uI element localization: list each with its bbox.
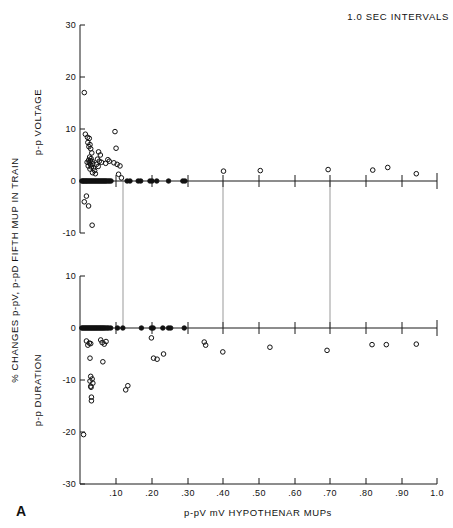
upper-point <box>119 176 124 181</box>
interval-annotation: 1.0 SEC INTERVALS <box>347 11 449 22</box>
upper-point <box>154 179 159 184</box>
scatter-figure: 1.0 SEC INTERVALS % CHANGES p-pV, p-pD F… <box>0 0 453 528</box>
upper-panel: p-p VOLTAGE 30 20 10 0 -10 <box>32 20 437 264</box>
xtick-label-7: .80 <box>359 488 372 498</box>
lower-panel-y-label: p-p DURATION <box>32 354 43 426</box>
xtick-label-1: .20 <box>145 488 158 498</box>
lower-point <box>121 326 126 331</box>
upper-ytick-neg10: -10 <box>62 228 76 238</box>
figure-container: 1.0 SEC INTERVALS % CHANGES p-pV, p-pD F… <box>0 0 453 528</box>
xtick-label-9: 1.0 <box>430 488 443 498</box>
lower-point <box>126 383 131 388</box>
y-axis-outer-label: % CHANGES p-pV, p-pD FIFTH MUP IN TRAIN <box>9 157 20 382</box>
upper-point <box>166 179 171 184</box>
lower-gridlines <box>123 264 330 328</box>
lower-panel: p-p DURATION 10 0 -10 -20 -30 <box>32 264 444 498</box>
upper-point <box>138 179 143 184</box>
lower-point <box>108 326 113 331</box>
lower-point <box>139 326 144 331</box>
lower-point <box>151 326 156 331</box>
upper-ytick-20: 20 <box>66 72 76 82</box>
lower-point <box>325 348 330 353</box>
lower-ytick-10: 10 <box>66 271 76 281</box>
upper-point <box>82 90 87 95</box>
upper-point <box>109 179 114 184</box>
lower-ytick-0: 0 <box>71 323 76 333</box>
lower-ytick-neg20: -20 <box>62 427 76 437</box>
upper-point <box>150 179 155 184</box>
upper-point <box>114 146 119 151</box>
upper-point <box>414 171 419 176</box>
upper-ytick-30: 30 <box>66 20 76 30</box>
lower-point <box>414 342 419 347</box>
upper-point <box>128 179 133 184</box>
x-axis-ticks <box>116 478 402 484</box>
upper-y-ticks: 30 20 10 0 -10 <box>62 20 85 238</box>
upper-point <box>90 223 95 228</box>
upper-point <box>385 165 390 170</box>
xtick-label-0: .10 <box>109 488 122 498</box>
upper-point <box>370 168 375 173</box>
upper-panel-data-points <box>79 90 418 227</box>
lower-point <box>81 432 86 437</box>
upper-ytick-0: 0 <box>71 176 76 186</box>
lower-y-ticks: 10 0 -10 -20 -30 <box>62 271 85 489</box>
xtick-label-3: .40 <box>216 488 229 498</box>
upper-point <box>84 194 89 199</box>
upper-ytick-10: 10 <box>66 124 76 134</box>
lower-point <box>88 356 93 361</box>
upper-point <box>86 204 91 209</box>
lower-point <box>161 352 166 357</box>
upper-gridlines <box>123 181 330 264</box>
upper-point <box>93 171 98 176</box>
lower-point <box>149 336 154 341</box>
upper-point <box>326 167 331 172</box>
lower-ytick-neg30: -30 <box>62 479 76 489</box>
x-tick-labels: .10 .20 .30 .40 .50 .60 .70 .80 .90 1.0 <box>109 488 443 498</box>
upper-point <box>82 200 87 205</box>
xtick-label-2: .30 <box>181 488 194 498</box>
lower-point <box>161 326 166 331</box>
panel-letter: A <box>16 503 27 519</box>
lower-point <box>370 342 375 347</box>
xtick-label-6: .70 <box>323 488 336 498</box>
upper-point <box>183 179 188 184</box>
x-axis-label: p-pV mV HYPOTHENAR MUPs <box>184 507 332 518</box>
lower-point <box>384 342 389 347</box>
xtick-label-5: .60 <box>288 488 301 498</box>
xtick-label-4: .50 <box>252 488 265 498</box>
lower-point <box>101 360 106 365</box>
lower-point <box>115 326 120 331</box>
upper-point <box>113 129 118 134</box>
lower-ytick-neg10: -10 <box>62 375 76 385</box>
lower-panel-data-points <box>79 326 418 437</box>
xtick-label-8: .90 <box>395 488 408 498</box>
lower-point <box>268 345 273 350</box>
upper-point <box>258 168 263 173</box>
lower-point <box>182 326 187 331</box>
upper-point <box>221 169 226 174</box>
lower-point <box>168 326 173 331</box>
lower-point <box>221 350 226 355</box>
upper-panel-y-label: p-p VOLTAGE <box>32 89 43 155</box>
